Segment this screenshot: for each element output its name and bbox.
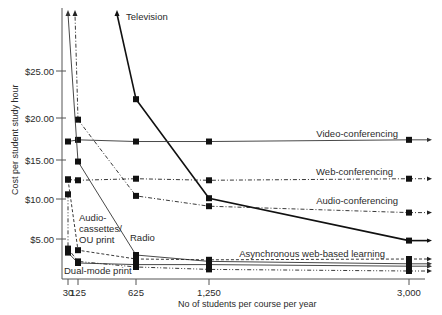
y-tick-label: $5.00 — [30, 234, 54, 245]
series-audio-conferencing — [73, 10, 433, 216]
data-point — [206, 195, 212, 201]
data-point — [133, 139, 139, 145]
arrow-right-icon — [427, 210, 432, 214]
data-point — [206, 139, 212, 145]
arrow-right-icon — [427, 238, 432, 242]
y-tick-label: $15.00 — [25, 155, 54, 166]
label-audio-conferencing: Audio-conferencing — [316, 195, 398, 206]
label-television: Television — [126, 11, 168, 22]
data-point — [133, 256, 139, 262]
x-ticks: 301256251,2503,000 — [63, 279, 421, 298]
x-tick-label: 3,000 — [397, 287, 421, 298]
label-web-conferencing: Web-conferencing — [316, 166, 393, 177]
data-point — [133, 176, 139, 182]
label-audio-cassettes-ou-print: Audio-cassettes/OU print — [79, 212, 122, 245]
data-point — [206, 177, 212, 183]
data-point — [206, 262, 212, 268]
data-point — [133, 96, 139, 102]
y-tick-label: $25.00 — [25, 66, 54, 77]
data-point — [406, 176, 412, 182]
y-axis-title: Cost per student study hour — [10, 84, 20, 195]
x-tick-label: 125 — [70, 287, 86, 298]
series-line — [68, 140, 409, 142]
data-point — [406, 137, 412, 143]
label-video-conferencing: Video-conferencing — [316, 128, 398, 139]
arrow-right-icon — [427, 269, 432, 273]
y-ticks: $5.00$10.00$15.00$20.00$25.00 — [25, 66, 66, 245]
arrow-right-icon — [427, 177, 432, 181]
data-point — [406, 256, 412, 262]
data-point — [133, 262, 139, 268]
data-point — [65, 139, 71, 145]
label-asynchronous-web-based-learning: Asynchronous web-based learning — [239, 248, 385, 259]
arrow-up-icon — [66, 10, 71, 16]
data-point — [206, 203, 212, 209]
data-point — [133, 193, 139, 199]
series-up-line — [75, 14, 78, 120]
x-tick-label: 625 — [128, 287, 144, 298]
series-up-line — [117, 14, 136, 99]
data-point — [406, 238, 412, 244]
labels-layer: TelevisionVideo-conferencingWeb-conferen… — [64, 11, 398, 276]
x-tick-label: 1,250 — [197, 287, 221, 298]
data-point — [406, 210, 412, 216]
arrow-right-icon — [427, 138, 432, 142]
data-point — [75, 159, 81, 165]
series-line — [68, 179, 409, 181]
data-point — [65, 177, 71, 183]
y-tick-label: $20.00 — [25, 113, 54, 124]
arrow-right-icon — [427, 257, 432, 261]
label-dual-mode-print: Dual-mode print — [64, 265, 132, 276]
data-point — [75, 137, 81, 143]
arrow-up-icon — [115, 10, 120, 16]
data-point — [65, 250, 71, 256]
label-radio: Radio — [130, 232, 155, 243]
data-point — [75, 247, 81, 253]
data-point — [75, 117, 81, 123]
x-axis-title: No of students per course per year — [178, 299, 317, 309]
arrow-up-icon — [73, 10, 78, 16]
series-layer — [65, 10, 432, 274]
series-television — [115, 10, 433, 244]
y-tick-label: $10.00 — [25, 194, 54, 205]
data-point — [75, 177, 81, 183]
cost-chart: $5.00$10.00$15.00$20.00$25.00 301256251,… — [0, 0, 442, 315]
data-point — [406, 263, 412, 269]
